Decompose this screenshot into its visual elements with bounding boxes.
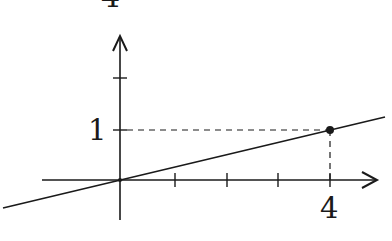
coordinate-diagram: 4 1 4: [0, 0, 392, 241]
y-label-1: 1: [88, 113, 106, 147]
point-4-1: [326, 126, 334, 134]
top-cut-label: 4: [101, 0, 120, 14]
origin-dot: [118, 178, 122, 182]
x-label-4: 4: [320, 191, 338, 225]
